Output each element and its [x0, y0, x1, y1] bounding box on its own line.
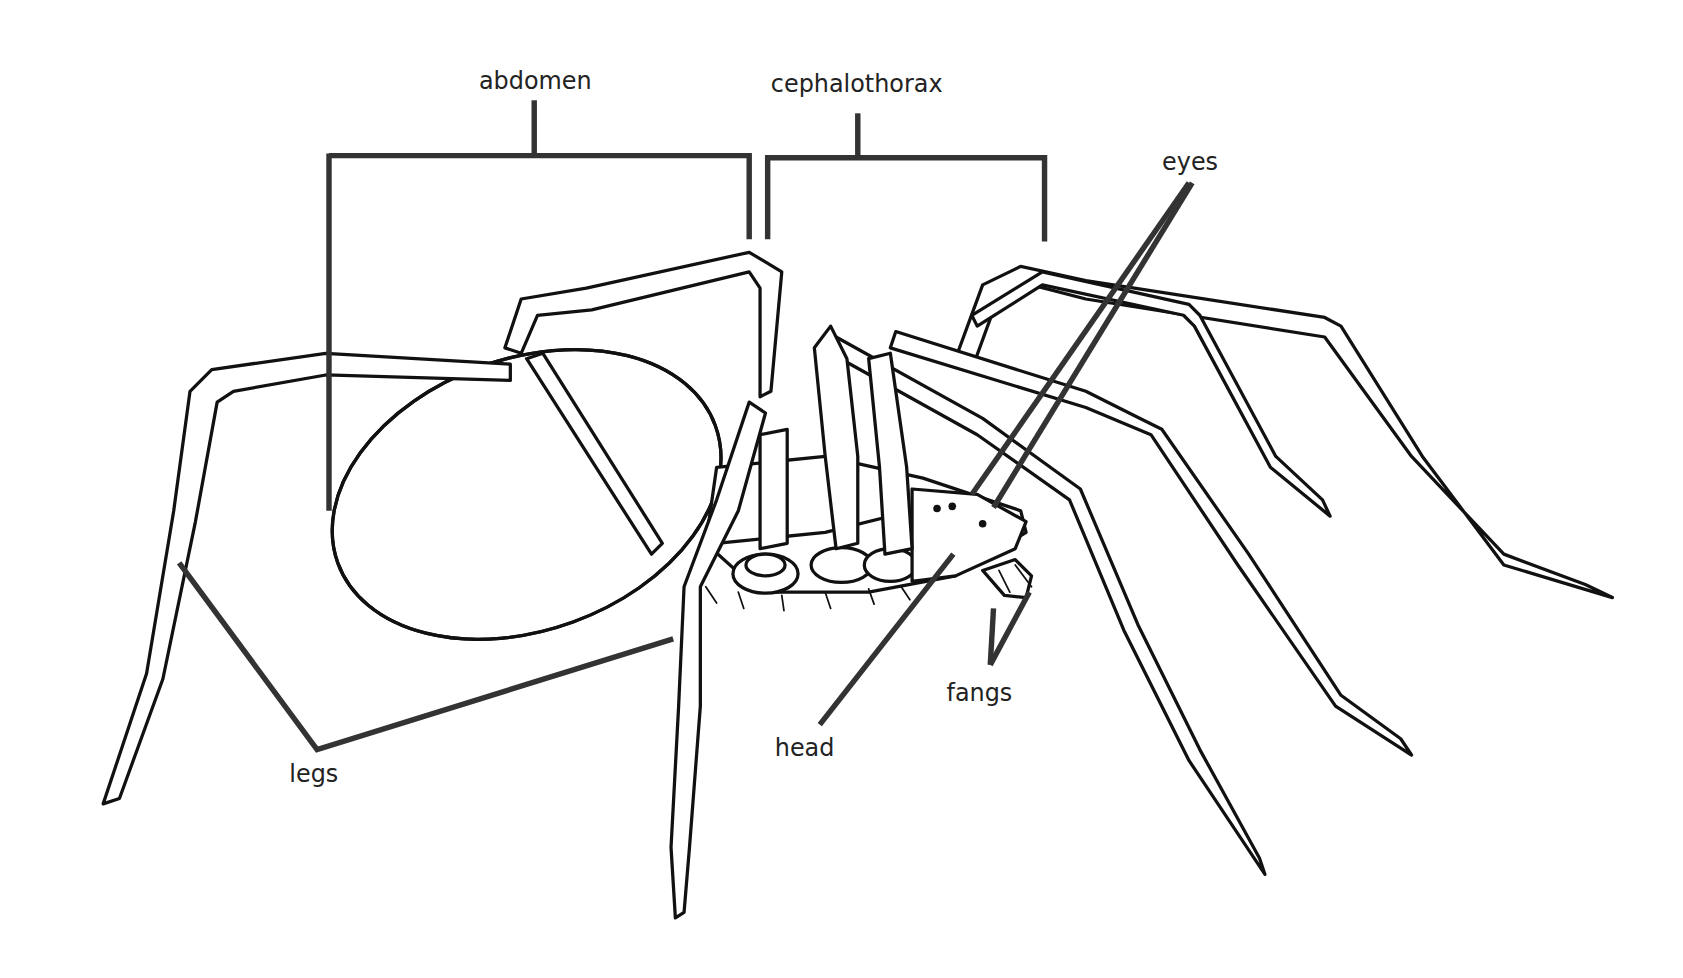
label-abdomen: abdomen — [479, 67, 592, 95]
spider-diagram: abdomen cephalothorax eyes fangs head le… — [0, 0, 1683, 978]
label-eyes: eyes — [1162, 148, 1218, 176]
label-cephalothorax: cephalothorax — [771, 70, 943, 98]
eye — [979, 520, 987, 528]
eye — [948, 503, 956, 511]
fang-shape — [983, 560, 1032, 598]
label-legs: legs — [289, 760, 338, 788]
label-head: head — [775, 734, 835, 762]
eye — [933, 505, 941, 513]
label-fangs: fangs — [947, 679, 1013, 707]
